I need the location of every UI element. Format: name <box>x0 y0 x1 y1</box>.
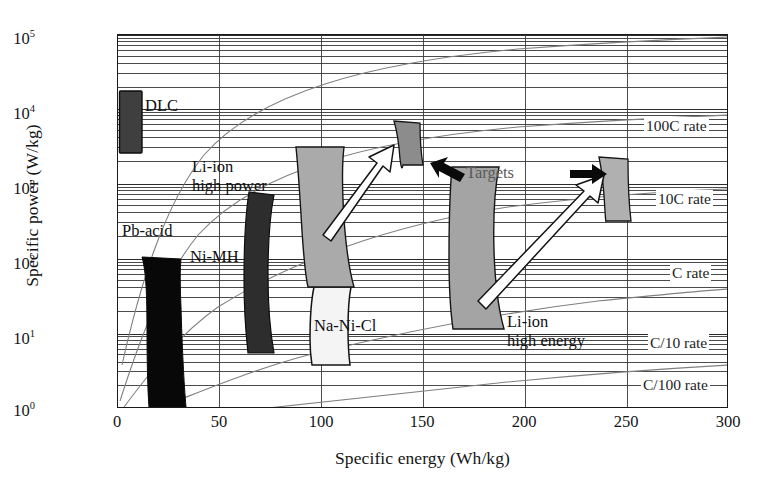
y-tick-exponent: 1 <box>30 328 35 339</box>
y-tick-mantissa: 10 <box>13 104 30 123</box>
region-pb-acid <box>142 257 186 407</box>
label-li-ion-high-power: Li-ion high power <box>192 157 267 196</box>
plot-area: 100C rate 10C rate C rate C/10 rate C/10… <box>117 34 728 408</box>
label-ni-mh: Ni-MH <box>190 248 239 266</box>
region-li-ion-high-energy <box>449 167 504 329</box>
y-tick-exponent: 5 <box>30 28 35 39</box>
y-tick-mantissa: 10 <box>13 401 30 420</box>
arrow-he-to-target <box>478 175 604 309</box>
x-tick-100: 100 <box>291 412 351 432</box>
x-tick-300: 300 <box>698 412 758 432</box>
x-tick-50: 50 <box>189 412 249 432</box>
rate-label-100c: 100C rate <box>644 117 709 135</box>
label-li-ion-high-energy-line1: Li-ion <box>507 312 585 331</box>
region-target-high-energy <box>599 157 631 222</box>
label-targets: Targets <box>466 163 514 183</box>
horizontal-gridlines <box>118 36 728 408</box>
plot-canvas <box>118 35 728 408</box>
ragone-plot: Specific power (W/kg) 105 104 103 102 10… <box>0 0 778 483</box>
rate-label-c10: C/10 rate <box>648 334 709 352</box>
y-tick-mantissa: 10 <box>13 29 30 48</box>
rate-curve-100c <box>122 37 728 365</box>
y-tick-exponent: 3 <box>30 178 35 189</box>
rate-curve-c <box>124 189 728 407</box>
label-li-ion-high-energy-line2: high energy <box>507 331 585 350</box>
label-na-ni-cl: Na-Ni-Cl <box>314 317 376 335</box>
y-tick-mantissa: 10 <box>13 179 30 198</box>
label-pb-acid: Pb-acid <box>122 222 172 240</box>
x-tick-200: 200 <box>494 412 554 432</box>
label-dlc: DLC <box>145 97 178 115</box>
rate-label-c: C rate <box>670 264 711 282</box>
y-tick-exponent: 2 <box>30 253 35 264</box>
y-tick-mantissa: 10 <box>13 254 30 273</box>
x-tick-0: 0 <box>87 412 147 432</box>
y-axis-title: Specific power (W/kg) <box>22 56 43 356</box>
x-tick-150: 150 <box>392 412 452 432</box>
region-target-high-power <box>394 121 423 168</box>
region-ni-mh <box>244 192 274 353</box>
y-tick-mantissa: 10 <box>13 329 30 348</box>
label-li-ion-high-power-line1: Li-ion <box>192 157 267 176</box>
y-tick-exponent: 4 <box>30 103 35 114</box>
x-tick-250: 250 <box>596 412 656 432</box>
label-li-ion-high-energy: Li-ion high energy <box>507 312 585 351</box>
label-li-ion-high-power-line2: high power <box>192 176 267 195</box>
y-tick-exponent: 0 <box>30 400 35 411</box>
region-dlc <box>120 91 143 153</box>
rate-label-c100: C/100 rate <box>641 376 710 394</box>
x-axis-title: Specific energy (Wh/kg) <box>117 448 728 469</box>
rate-label-10c: 10C rate <box>656 190 713 208</box>
